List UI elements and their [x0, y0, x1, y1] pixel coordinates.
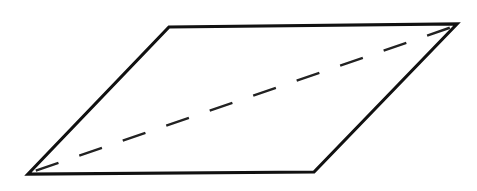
parallelogram-diagram — [0, 0, 477, 191]
dashed-diagonal — [32, 27, 452, 172]
